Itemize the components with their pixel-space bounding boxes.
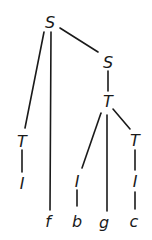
tree-node-b: b — [72, 212, 82, 231]
tree-node-s: S — [103, 53, 113, 72]
tree-edge — [60, 28, 98, 52]
parse-tree-diagram: STIfSTIbgTIc — [0, 0, 152, 240]
tree-node-i: I — [20, 174, 25, 193]
tree-edge — [50, 32, 51, 210]
tree-node-t: T — [17, 132, 28, 151]
tree-edge — [82, 113, 101, 168]
tree-node-t: T — [103, 92, 114, 111]
tree-node-i: I — [133, 172, 138, 191]
tree-edge — [25, 32, 44, 128]
tree-edge — [113, 109, 130, 129]
tree-node-s: S — [45, 13, 55, 32]
tree-node-i: I — [75, 172, 80, 191]
tree-node-c: c — [130, 212, 139, 231]
tree-node-t: T — [130, 131, 141, 150]
tree-node-f: f — [45, 212, 53, 231]
tree-node-g: g — [99, 213, 109, 232]
tree-nodes: STIfSTIbgTIc — [17, 13, 141, 232]
